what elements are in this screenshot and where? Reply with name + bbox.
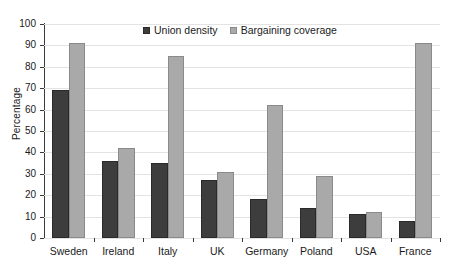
y-tick-label: 90 [25, 40, 36, 50]
bar [102, 161, 119, 238]
bar [168, 56, 185, 238]
y-tick-label: 0 [30, 233, 36, 243]
x-tick-mark [341, 238, 342, 242]
bar [415, 43, 432, 238]
x-tick-label: Poland [292, 245, 342, 257]
y-tick-mark [40, 238, 44, 239]
x-tick-mark [94, 238, 95, 242]
plot-area [44, 24, 440, 238]
y-tick-mark [40, 45, 44, 46]
y-tick-label: 60 [25, 105, 36, 115]
bar [201, 180, 218, 238]
x-tick-label: USA [341, 245, 391, 257]
legend-swatch-icon [230, 27, 237, 34]
x-tick-label: France [391, 245, 441, 257]
legend-label: Bargaining coverage [241, 24, 337, 36]
x-tick-label: Italy [143, 245, 193, 257]
y-tick-label: 10 [25, 212, 36, 222]
bar [217, 172, 234, 238]
y-tick-mark [40, 195, 44, 196]
legend: Union density Bargaining coverage [143, 24, 337, 36]
y-tick-label: 80 [25, 62, 36, 72]
bar [366, 212, 383, 238]
legend-item-bargaining-coverage: Bargaining coverage [230, 24, 337, 36]
bar [69, 43, 86, 238]
y-tick-mark [40, 217, 44, 218]
x-tick-mark [440, 238, 441, 242]
x-tick-label: Ireland [94, 245, 144, 257]
x-tick-mark [242, 238, 243, 242]
y-tick-mark [40, 88, 44, 89]
bar [267, 105, 284, 238]
y-tick-label: 70 [25, 83, 36, 93]
y-tick-label: 40 [25, 147, 36, 157]
bar [52, 90, 69, 238]
y-tick-mark [40, 110, 44, 111]
bar [151, 163, 168, 238]
y-tick-mark [40, 131, 44, 132]
y-tick-mark [40, 24, 44, 25]
x-tick-mark [391, 238, 392, 242]
y-axis-ticks: 0102030405060708090100 [0, 24, 44, 238]
x-tick-mark [292, 238, 293, 242]
y-tick-label: 50 [25, 126, 36, 136]
x-tick-label: Germany [242, 245, 292, 257]
bars-layer [44, 24, 440, 238]
y-tick-mark [40, 174, 44, 175]
x-tick-label: UK [193, 245, 243, 257]
y-tick-label: 20 [25, 190, 36, 200]
y-tick-label: 100 [19, 19, 36, 29]
x-tick-mark [143, 238, 144, 242]
bar [349, 214, 366, 238]
bar [118, 148, 135, 238]
x-tick-mark [193, 238, 194, 242]
y-tick-mark [40, 152, 44, 153]
bar [399, 221, 416, 238]
bar [300, 208, 317, 238]
legend-label: Union density [154, 24, 218, 36]
y-tick-label: 30 [25, 169, 36, 179]
bar [316, 176, 333, 238]
y-tick-mark [40, 67, 44, 68]
bar-chart: Percentage 0102030405060708090100 Sweden… [0, 0, 452, 275]
legend-swatch-icon [143, 27, 150, 34]
bar [250, 199, 267, 238]
legend-item-union-density: Union density [143, 24, 218, 36]
x-tick-label: Sweden [44, 245, 94, 257]
